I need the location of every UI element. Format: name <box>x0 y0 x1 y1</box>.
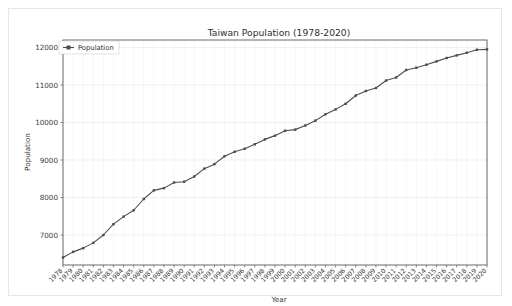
data-point-1992[interactable] <box>203 167 205 169</box>
data-point-1990[interactable] <box>183 181 185 183</box>
y-tick-label-7000: 7000 <box>40 231 59 240</box>
data-point-2004[interactable] <box>324 113 326 115</box>
data-point-1978[interactable] <box>62 256 64 258</box>
data-point-1980[interactable] <box>82 247 84 249</box>
data-point-2000[interactable] <box>284 130 286 132</box>
data-point-2003[interactable] <box>314 119 316 121</box>
data-point-1985[interactable] <box>132 209 134 211</box>
y-tick-label-8000: 8000 <box>40 193 59 202</box>
data-point-1991[interactable] <box>193 175 195 177</box>
data-point-2009[interactable] <box>375 87 377 89</box>
data-point-2008[interactable] <box>365 90 367 92</box>
data-point-2012[interactable] <box>405 69 407 71</box>
legend-label-population: Population <box>78 44 114 52</box>
data-point-2005[interactable] <box>334 108 336 110</box>
data-point-2006[interactable] <box>344 103 346 105</box>
y-axis-label: Population <box>23 133 32 171</box>
data-point-1997[interactable] <box>254 143 256 145</box>
chart-figure: 1978197919801981198219831984198519861987… <box>0 0 512 306</box>
data-point-1981[interactable] <box>92 242 94 244</box>
data-point-1984[interactable] <box>122 215 124 217</box>
data-point-2018[interactable] <box>466 52 468 54</box>
data-point-1998[interactable] <box>264 138 266 140</box>
chart-title: Taiwan Population (1978-2020) <box>207 27 351 38</box>
data-point-1983[interactable] <box>112 223 114 225</box>
chart-legend[interactable]: Population <box>59 41 119 54</box>
data-point-2001[interactable] <box>294 128 296 130</box>
x-axis-label: Year <box>270 295 286 304</box>
data-point-2013[interactable] <box>415 67 417 69</box>
data-point-2007[interactable] <box>355 94 357 96</box>
data-point-2017[interactable] <box>456 54 458 56</box>
data-point-2015[interactable] <box>435 60 437 62</box>
data-point-1989[interactable] <box>173 181 175 183</box>
data-point-2019[interactable] <box>476 49 478 51</box>
data-point-1995[interactable] <box>233 151 235 153</box>
legend-marker-sample <box>67 46 71 50</box>
y-tick-label-11000: 11000 <box>35 81 58 90</box>
data-point-2011[interactable] <box>395 76 397 78</box>
x-gridlines <box>63 40 487 265</box>
data-point-2010[interactable] <box>385 79 387 81</box>
data-point-1982[interactable] <box>102 234 104 236</box>
data-point-1986[interactable] <box>143 198 145 200</box>
data-point-1979[interactable] <box>72 251 74 253</box>
data-point-1994[interactable] <box>223 155 225 157</box>
y-tick-label-9000: 9000 <box>40 156 59 165</box>
data-point-1988[interactable] <box>163 187 165 189</box>
y-tick-labels: 700080009000100001100012000 <box>35 43 58 240</box>
line-chart-canvas: 1978197919801981198219831984198519861987… <box>0 0 512 306</box>
data-point-2020[interactable] <box>486 48 488 50</box>
data-point-2002[interactable] <box>304 124 306 126</box>
x-tick-labels: 1978197919801981198219831984198519861987… <box>47 267 488 284</box>
data-point-1999[interactable] <box>274 134 276 136</box>
data-point-1987[interactable] <box>153 189 155 191</box>
data-point-1996[interactable] <box>244 148 246 150</box>
data-point-2016[interactable] <box>445 57 447 59</box>
y-tick-label-10000: 10000 <box>35 118 58 127</box>
data-point-2014[interactable] <box>425 64 427 66</box>
y-tick-label-12000: 12000 <box>35 43 58 52</box>
data-point-1993[interactable] <box>213 163 215 165</box>
